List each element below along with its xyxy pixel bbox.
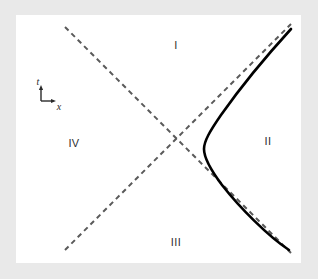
region-label-III: III [171,236,181,248]
region-label-II: II [265,135,272,147]
region-label-I: I [174,39,177,51]
region-label-IV: IV [68,137,79,149]
axis-label-x: x [57,101,61,112]
plot-canvas [16,15,301,263]
spacetime-diagram-figure: I II III IV t x [0,0,318,279]
axis-label-t: t [37,76,40,87]
